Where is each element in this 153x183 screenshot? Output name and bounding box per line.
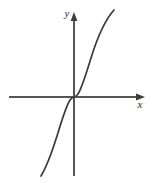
y-axis-label: y	[64, 7, 70, 19]
x-axis-label: x	[137, 98, 143, 110]
plot-canvas: y x	[0, 0, 153, 183]
cubic-curve-path	[41, 10, 114, 176]
y-axis-arrowhead	[71, 12, 78, 21]
cubic-function-figure: y x	[0, 0, 153, 183]
